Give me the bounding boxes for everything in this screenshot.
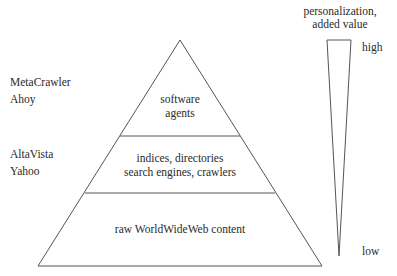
value-scale-wedge: [327, 40, 351, 256]
example-yahoo: Yahoo: [10, 163, 53, 180]
example-altavista: AltaVista: [10, 146, 53, 163]
layer-top-label: software agents: [160, 92, 200, 120]
layer-top-line-2: agents: [160, 106, 200, 120]
scale-title-line-2: added value: [303, 18, 376, 31]
examples-middle-layer: AltaVista Yahoo: [10, 146, 53, 180]
layer-middle-line-2: search engines, crawlers: [124, 165, 236, 179]
scale-high-label: high: [362, 40, 382, 54]
scale-title-line-1: personalization,: [303, 5, 376, 18]
layer-top-line-1: software: [160, 92, 200, 106]
layer-bottom-label: raw WorldWideWeb content: [115, 222, 245, 236]
example-metacrawler: MetaCrawler: [10, 74, 71, 91]
layer-middle-line-1: indices, directories: [124, 151, 236, 165]
example-ahoy: Ahoy: [10, 91, 71, 108]
examples-top-layer: MetaCrawler Ahoy: [10, 74, 71, 108]
scale-title: personalization, added value: [303, 5, 376, 31]
layer-middle-label: indices, directories search engines, cra…: [124, 151, 236, 179]
scale-low-label: low: [362, 244, 379, 258]
layer-bottom-line-1: raw WorldWideWeb content: [115, 222, 245, 236]
